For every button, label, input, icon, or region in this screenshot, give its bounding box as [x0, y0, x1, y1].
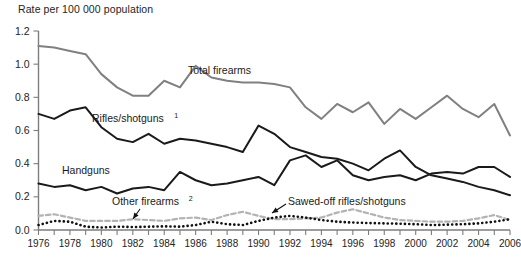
- x-tick-label: 1980: [90, 238, 113, 249]
- y-tick-label: 0.2: [15, 190, 30, 202]
- x-tick-label: 1996: [342, 238, 365, 249]
- series-annotations: Total firearmsRifles/shotguns1HandgunsOt…: [62, 64, 406, 219]
- x-tick-label: 1986: [185, 238, 208, 249]
- series-label-handguns: Handguns: [62, 164, 110, 176]
- y-tick-label: 1.0: [15, 58, 30, 70]
- y-tick-label: 0.4: [15, 157, 30, 169]
- x-tick-label: 2002: [436, 238, 459, 249]
- x-tick-label: 2000: [405, 238, 428, 249]
- y-tick-label: 0.8: [15, 91, 30, 103]
- x-axis-ticks: 1976197819801982198419861988199019921994…: [27, 230, 521, 249]
- series-label-sawed-off-rifles-shotguns: Sawed-off rifles/shotguns: [288, 195, 406, 207]
- y-axis-ticks: 0.00.20.40.60.81.01.2: [15, 25, 39, 236]
- series-label-total-firearms: Total firearms: [188, 64, 251, 76]
- annotation-arrowhead: [272, 208, 278, 213]
- series-lines: [39, 46, 511, 228]
- y-tick-label: 1.2: [15, 25, 30, 37]
- chart-figure: Rate per 100 000 population 0.00.20.40.6…: [0, 0, 521, 262]
- x-tick-label: 2004: [467, 238, 490, 249]
- x-tick-label: 2006: [499, 238, 521, 249]
- series-label-footnote-marker: 1: [174, 112, 178, 119]
- series-label-other-firearms: Other firearms: [112, 195, 179, 207]
- chart-plot-area: 0.00.20.40.60.81.01.2 197619781980198219…: [0, 0, 521, 262]
- x-tick-label: 1990: [247, 238, 270, 249]
- x-tick-label: 1998: [373, 238, 396, 249]
- x-tick-label: 1994: [310, 238, 333, 249]
- x-tick-label: 1976: [27, 238, 50, 249]
- y-tick-label: 0.6: [15, 124, 30, 136]
- x-tick-label: 1984: [153, 238, 176, 249]
- x-tick-label: 1978: [59, 238, 82, 249]
- series-label-footnote-marker: 2: [189, 195, 193, 202]
- x-tick-label: 1988: [216, 238, 239, 249]
- x-tick-label: 1992: [279, 238, 302, 249]
- x-tick-label: 1982: [122, 238, 145, 249]
- series-label-rifles-shotguns: Rifles/shotguns: [92, 112, 164, 124]
- annotation-arrowhead: [133, 213, 139, 219]
- y-tick-label: 0.0: [15, 224, 30, 236]
